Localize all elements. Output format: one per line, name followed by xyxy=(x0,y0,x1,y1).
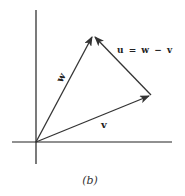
label-v: v xyxy=(100,119,108,130)
vector-w xyxy=(36,37,92,142)
label-u-equation: u = w − v xyxy=(117,45,173,55)
vector-diagram: w v u = w − v (b) xyxy=(0,0,185,196)
figure-caption: (b) xyxy=(82,174,98,187)
vector-v xyxy=(36,96,149,142)
label-w: w xyxy=(54,71,68,85)
